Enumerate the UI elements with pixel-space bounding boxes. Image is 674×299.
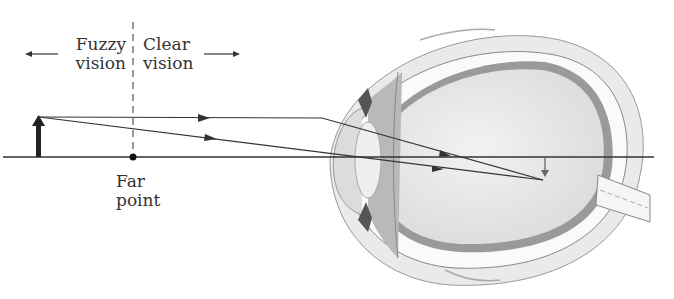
clear-label-line1: Clear [143, 35, 193, 54]
far-point-dot [130, 154, 137, 161]
myopia-diagram: Fuzzy vision Clear vision Far point [0, 0, 674, 299]
fuzzy-label-line1: Fuzzy [66, 35, 126, 54]
fuzzy-label-line2: vision [66, 54, 126, 73]
far-point-label: Far point [116, 172, 160, 210]
clear-label-line2: vision [143, 54, 193, 73]
fuzzy-vision-label: Fuzzy vision [66, 35, 126, 73]
clear-vision-label: Clear vision [143, 35, 193, 73]
right-arrow-icon [204, 51, 240, 57]
left-arrow-icon [25, 51, 58, 57]
far-label-line2: point [116, 191, 160, 210]
far-label-line1: Far [116, 172, 160, 191]
object-arrow-icon [32, 115, 45, 157]
